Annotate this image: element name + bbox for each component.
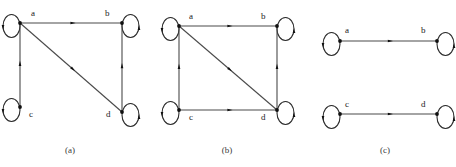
node-label-c-d: d (421, 99, 426, 109)
node-b-d (275, 108, 279, 112)
edge-arrowhead-b-c-d (227, 109, 232, 112)
edge-arrowhead-b-loop-c (161, 112, 164, 117)
self-loop-c-d (437, 106, 454, 129)
node-label-a-a: a (31, 8, 35, 18)
node-c-a (338, 39, 342, 43)
panel-b: abcd(b) (161, 11, 296, 155)
edge-arrowhead-a-loop-b (138, 25, 141, 30)
edge-arrowhead-a-loop-d (138, 114, 141, 119)
panel-caption-c: (c) (380, 145, 390, 155)
panel-c: abcd(c) (322, 25, 456, 155)
edge-arrowhead-c-loop-b (453, 43, 456, 48)
edge-arrowhead-b-c-a (178, 64, 181, 69)
panel-caption-a: (a) (65, 145, 75, 155)
edge-arrowhead-b-a-b (227, 25, 232, 28)
node-c-c (338, 112, 342, 116)
node-label-c-b: b (421, 25, 426, 35)
node-label-a-d: d (106, 109, 111, 119)
edge-arrowhead-a-loop-a (2, 25, 5, 30)
edge-arrowhead-c-loop-d (453, 116, 456, 121)
edge-arrowhead-c-loop-c (322, 116, 325, 121)
self-loop-a-d (122, 104, 139, 127)
self-loop-c-c (323, 106, 340, 129)
node-c-d (435, 112, 439, 116)
panel-caption-b: (b) (222, 145, 233, 155)
node-a-a (18, 21, 22, 25)
self-loop-b-b (277, 18, 294, 41)
node-b-a (177, 24, 181, 28)
self-loop-a-c (3, 99, 20, 122)
node-a-d (120, 110, 124, 114)
self-loop-a-a (3, 15, 20, 38)
node-a-b (120, 21, 124, 25)
node-c-b (435, 39, 439, 43)
edge-a-a-to-d (20, 23, 122, 112)
edge-arrowhead-a-d-b (121, 63, 124, 68)
node-a-c (18, 105, 22, 109)
edge-arrowhead-b-loop-b (293, 28, 296, 33)
self-loop-b-c (162, 102, 179, 125)
node-b-c (177, 108, 181, 112)
self-loop-c-b (437, 33, 454, 56)
edge-arrowhead-a-loop-c (2, 109, 5, 114)
edge-arrowhead-b-d-b (276, 64, 279, 69)
edge-arrowhead-b-loop-d (293, 112, 296, 117)
self-loop-b-a (162, 18, 179, 41)
self-loop-b-d (277, 102, 294, 125)
relation-digraph-figure: abcd(a)abcd(b)abcd(c) (0, 0, 456, 167)
node-label-b-b: b (261, 11, 266, 21)
node-label-a-c: c (29, 109, 33, 119)
self-loop-a-b (122, 15, 139, 38)
node-label-c-c: c (345, 99, 349, 109)
node-label-b-c: c (189, 112, 193, 122)
edge-arrowhead-a-c-a (19, 61, 22, 66)
edge-arrowhead-c-c-d (388, 113, 393, 116)
node-label-c-a: a (345, 25, 349, 35)
edge-arrowhead-c-a-b (388, 40, 393, 43)
node-label-b-a: a (189, 11, 193, 21)
node-label-b-d: d (261, 112, 266, 122)
edge-arrowhead-c-loop-a (322, 43, 325, 48)
panel-a: abcd(a) (2, 8, 141, 155)
edge-arrowhead-b-loop-a (161, 28, 164, 33)
edge-arrowhead-a-a-b (70, 22, 75, 25)
node-b-b (275, 24, 279, 28)
node-label-a-b: b (105, 8, 110, 18)
digraph-canvas: abcd(a)abcd(b)abcd(c) (0, 0, 456, 167)
self-loop-c-a (323, 33, 340, 56)
